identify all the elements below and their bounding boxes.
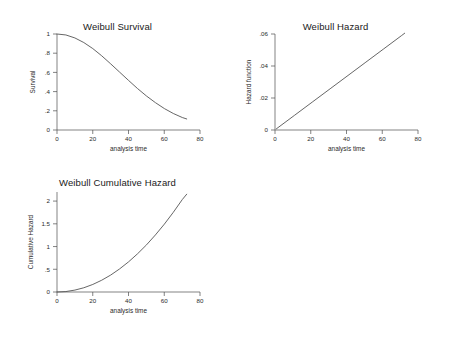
hazard-ytick-2: .04 — [259, 62, 268, 69]
panel-weibull-hazard: Weibull Hazard 0 .02 .04 .06 0 20 — [228, 18, 443, 173]
hazard-xlabel: analysis time — [328, 145, 365, 153]
survival-ylabel: Survival — [29, 71, 36, 94]
cumhazard-ytick-4: 2 — [47, 197, 51, 204]
survival-x-ticks — [57, 130, 200, 134]
cumhazard-ylabel: Cumulative Hazard — [27, 214, 34, 269]
survival-xlabel: analysis time — [110, 145, 147, 153]
cumhazard-plot: 0 .5 1 1.5 2 0 20 40 60 80 analysis time… — [10, 174, 225, 334]
cumhazard-ytick-2: 1 — [47, 243, 51, 250]
hazard-ylabel: Hazard function — [245, 59, 252, 104]
cumhazard-xtick-4: 80 — [197, 297, 204, 304]
cumhazard-curve — [57, 194, 187, 292]
survival-ytick-1: .2 — [45, 107, 51, 114]
hazard-ytick-1: .02 — [259, 94, 268, 101]
hazard-xtick-1: 20 — [307, 135, 314, 142]
cumhazard-ytick-0: 0 — [47, 288, 51, 295]
hazard-ytick-0: 0 — [265, 126, 269, 133]
survival-ytick-4: .8 — [45, 49, 51, 56]
cumhazard-xtick-3: 60 — [161, 297, 168, 304]
survival-y-ticks — [53, 34, 57, 130]
survival-plot: 0 .2 .4 .6 .8 1 0 20 40 60 80 analysis t… — [10, 18, 225, 173]
survival-xtick-2: 40 — [125, 135, 132, 142]
survival-ytick-3: .6 — [45, 69, 51, 76]
survival-xtick-0: 0 — [55, 135, 59, 142]
cumhazard-xtick-1: 20 — [89, 297, 96, 304]
cumhazard-x-ticks — [57, 292, 200, 296]
hazard-y-ticks — [271, 34, 275, 130]
cumhazard-xtick-0: 0 — [55, 297, 59, 304]
panel-weibull-cumulative-hazard: Weibull Cumulative Hazard 0 .5 1 1.5 2 — [10, 174, 225, 334]
cumhazard-ytick-3: 1.5 — [41, 220, 50, 227]
cumhazard-y-ticks — [53, 201, 57, 292]
hazard-xtick-4: 80 — [415, 135, 422, 142]
survival-curve — [57, 34, 187, 119]
survival-ytick-0: 0 — [47, 126, 51, 133]
cumhazard-ytick-1: .5 — [45, 266, 51, 273]
survival-ytick-2: .4 — [45, 88, 51, 95]
weibull-figure: Weibull Survival 0 .2 .4 .6 .8 1 — [0, 0, 449, 342]
hazard-ytick-3: .06 — [259, 30, 268, 37]
survival-xtick-1: 20 — [89, 135, 96, 142]
hazard-plot: 0 .02 .04 .06 0 20 40 60 80 analysis tim… — [228, 18, 443, 173]
panel-weibull-survival: Weibull Survival 0 .2 .4 .6 .8 1 — [10, 18, 225, 173]
cumhazard-xtick-2: 40 — [125, 297, 132, 304]
hazard-curve — [276, 33, 404, 129]
hazard-x-ticks — [275, 130, 418, 134]
survival-xtick-4: 80 — [197, 135, 204, 142]
hazard-xtick-3: 60 — [379, 135, 386, 142]
survival-ytick-5: 1 — [47, 30, 51, 37]
survival-xtick-3: 60 — [161, 135, 168, 142]
hazard-xtick-2: 40 — [343, 135, 350, 142]
cumhazard-xlabel: analysis time — [110, 307, 147, 315]
hazard-xtick-0: 0 — [273, 135, 277, 142]
